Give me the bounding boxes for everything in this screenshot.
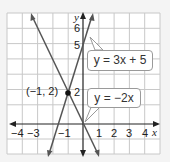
- x-tick-1: 1: [96, 127, 102, 139]
- equation-2-text: y = −2x: [94, 91, 133, 105]
- y-tick-2: 2: [74, 86, 80, 98]
- x-axis-label: x: [152, 126, 157, 138]
- x-tick-neg1: −1: [58, 127, 71, 139]
- x-tick-neg4: −4: [11, 127, 24, 139]
- x-tick-4: 4: [142, 127, 148, 139]
- y-tick-5: 5: [74, 39, 80, 51]
- equation-callout-2: y = −2x: [87, 88, 141, 108]
- equation-callout-1: y = 3x + 5: [87, 50, 153, 71]
- x-tick-2: 2: [111, 127, 117, 139]
- x-tick-3: 3: [126, 127, 132, 139]
- point-label: (−1, 2): [26, 85, 58, 97]
- y-tick-6: 6: [74, 22, 80, 34]
- equation-1-text: y = 3x + 5: [94, 53, 147, 67]
- intersection-point: [65, 90, 71, 96]
- x-tick-neg3: −3: [27, 127, 40, 139]
